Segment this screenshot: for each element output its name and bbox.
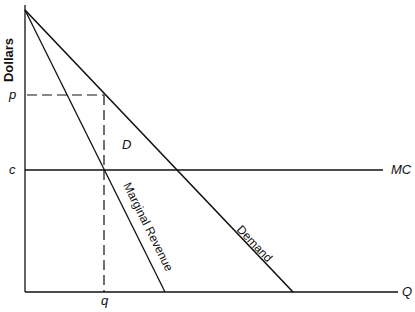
monopoly-diagram: Dollars p c q Q MC D Demand Marginal Rev…	[0, 0, 415, 312]
quantity-label: q	[101, 293, 109, 308]
demand-curve-label: Demand	[234, 222, 275, 265]
marginal-revenue-curve	[25, 10, 165, 292]
x-axis-label: Q	[402, 284, 412, 299]
cost-label: c	[9, 162, 16, 177]
region-d-label: D	[122, 137, 131, 152]
y-axis-label: Dollars	[1, 38, 16, 82]
price-label: p	[8, 87, 16, 102]
mc-label: MC	[391, 162, 412, 177]
